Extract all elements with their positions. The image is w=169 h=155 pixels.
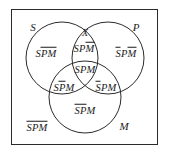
set-label-m: M <box>119 121 128 132</box>
region-p-only-tail: M <box>128 47 137 59</box>
venn-circles <box>0 0 169 155</box>
venn-diagram-figure: S P M X SPM SPM SPM SPM SPM SPM SPM SPM <box>0 0 169 155</box>
region-sp-not-m-head: SP <box>73 42 85 54</box>
region-outside: SPM <box>26 121 47 134</box>
region-outside-text: SPM <box>26 121 47 133</box>
region-spm-center: SPM <box>74 63 95 76</box>
region-sm-not-p: SPM <box>53 81 74 94</box>
region-p-only: SPM <box>115 47 136 60</box>
region-sp-not-m: SPM <box>73 42 94 55</box>
region-pm-not-s: SPM <box>95 81 116 94</box>
region-m-only: SPM <box>74 104 95 117</box>
region-pm-not-s-tail: PM <box>101 81 117 93</box>
region-sp-not-m-tail: M <box>86 42 95 54</box>
set-label-s: S <box>30 22 36 33</box>
region-s-only: SPM <box>35 47 56 60</box>
region-m-only-tail: M <box>87 104 96 116</box>
region-m-only-head: SP <box>74 104 86 116</box>
point-label-x: X <box>82 28 88 38</box>
region-sm-not-p-tail: M <box>66 81 75 93</box>
region-s-only-tail: PM <box>41 47 57 59</box>
region-spm-center-text: SPM <box>74 63 95 75</box>
set-label-p: P <box>133 22 140 33</box>
